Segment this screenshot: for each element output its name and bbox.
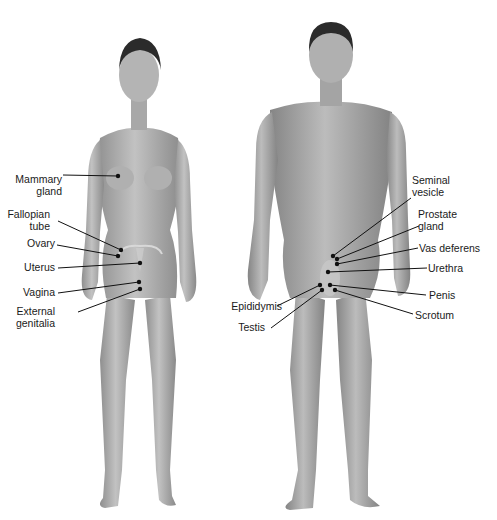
label-mammary-gland: Mammary gland [15, 173, 62, 197]
label-vas-deferens: Vas deferens [419, 242, 480, 254]
label-vagina: Vagina [23, 286, 55, 298]
label-external-genitalia: External genitalia [16, 305, 55, 329]
male-figure [248, 22, 411, 510]
seminal-vesicle-pointer-dot [331, 254, 335, 258]
prostate-gland-pointer-dot [335, 257, 339, 261]
urethra-pointer-dot [326, 270, 330, 274]
label-ovary: Ovary [27, 237, 55, 249]
testis-pointer-dot [320, 288, 324, 292]
label-testis: Testis [238, 321, 265, 333]
female-figure [82, 38, 197, 508]
mammary-gland-pointer-dot [116, 174, 120, 178]
label-fallopian-tube: Fallopian tube [7, 208, 50, 232]
label-penis: Penis [429, 289, 455, 301]
external-genitalia-pointer-dot [138, 287, 142, 291]
label-uterus: Uterus [24, 261, 55, 273]
fallopian-tube-pointer-dot [119, 248, 123, 252]
uterus-pointer-dot [138, 261, 142, 265]
penis-pointer-dot [328, 283, 332, 287]
label-urethra: Urethra [428, 262, 463, 274]
vas-deferens-pointer-dot [335, 262, 339, 266]
reproductive-anatomy-diagram: Mammary glandFallopian tubeOvaryUterusVa… [0, 0, 497, 520]
label-seminal-vesicle: Seminal vesicle [412, 174, 450, 198]
ovary-pointer-dot [116, 254, 120, 258]
scrotum-pointer-dot [333, 288, 337, 292]
label-scrotum: Scrotum [415, 309, 454, 321]
epididymis-pointer-dot [318, 283, 322, 287]
vagina-pointer-dot [137, 280, 141, 284]
label-prostate-gland: Prostate gland [418, 208, 457, 232]
anatomy-illustration [0, 0, 497, 520]
label-epididymis: Epididymis [231, 300, 282, 312]
